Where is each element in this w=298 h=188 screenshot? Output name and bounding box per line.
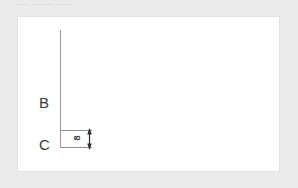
point-label-c: C (39, 137, 50, 152)
figure-caption-strip: —— ——— —— —— (14, 0, 76, 7)
figure-canvas: 8 B C (18, 17, 279, 171)
point-label-b: B (39, 95, 49, 110)
figure-panel: 8 B C (17, 16, 280, 172)
dimension-value-label: 8 (68, 129, 86, 147)
